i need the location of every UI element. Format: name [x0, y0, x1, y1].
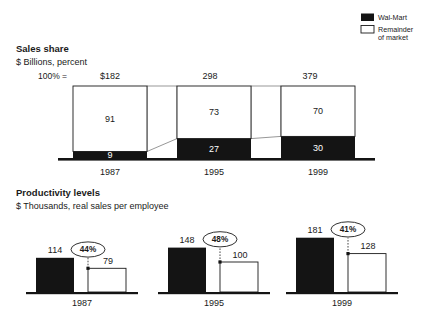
sales-share-value-walmart-1995: 27 — [209, 144, 219, 154]
productivity-callout-anchor-1987 — [86, 267, 89, 270]
productivity-callout-label-1987: 44% — [80, 245, 97, 254]
legend-swatch-remainder — [361, 26, 374, 34]
sales-share-year-1995: 1995 — [204, 167, 224, 177]
sales-share-baseline — [58, 158, 375, 161]
sales-share-value-walmart-1999: 30 — [313, 143, 323, 153]
sales-share-title: Sales share — [16, 43, 69, 54]
productivity-callout-anchor-1999 — [346, 252, 349, 255]
figure-canvas: Wal-Mart Remainder of market Sales share… — [0, 0, 424, 312]
sales-share-total-1995: 298 — [202, 71, 217, 81]
sales-share-value-remainder-1999: 70 — [313, 106, 323, 116]
chart-legend: Wal-Mart Remainder of market — [361, 13, 414, 42]
sales-share-column-1995[interactable]: 73 27 — [177, 86, 251, 158]
productivity-title: Productivity levels — [16, 187, 100, 198]
productivity-callout-anchor-1995 — [218, 260, 221, 263]
legend-swatch-wal-mart — [361, 14, 374, 22]
connector-band-1987-1995 — [147, 86, 177, 152]
productivity-value-walmart-1995: 148 — [179, 235, 194, 245]
sales-share-total-1999: 379 — [302, 71, 317, 81]
productivity-subtitle: $ Thousands, real sales per employee — [16, 201, 168, 211]
productivity-callout-label-1995: 48% — [212, 235, 229, 244]
productivity-callout-label-1999: 41% — [340, 225, 357, 234]
productivity-year-1999: 1999 — [332, 298, 352, 308]
connector-band-1987-1995-light — [147, 86, 177, 152]
figure-root: Wal-Mart Remainder of market Sales share… — [0, 0, 424, 312]
productivity-bar-remainder-1987[interactable] — [88, 268, 126, 292]
productivity-value-walmart-1987: 114 — [48, 245, 62, 255]
productivity-header: Productivity levels $ Thousands, real sa… — [16, 187, 168, 211]
sales-share-chart: 91 9 73 27 70 30 1987 1995 1999 — [58, 86, 375, 177]
sales-share-value-remainder-1987: 91 — [105, 114, 115, 124]
productivity-value-remainder-1995: 100 — [232, 250, 247, 260]
productivity-bar-walmart-1995[interactable] — [168, 248, 206, 292]
productivity-value-walmart-1999: 181 — [307, 225, 322, 235]
productivity-bar-remainder-1995[interactable] — [220, 262, 258, 292]
sales-share-subtitle: $ Billions, percent — [16, 57, 88, 67]
productivity-bar-walmart-1999[interactable] — [296, 238, 334, 292]
sales-share-total-1987: $182 — [100, 71, 120, 81]
productivity-value-remainder-1999: 128 — [360, 241, 375, 251]
sales-share-year-1999: 1999 — [308, 167, 328, 177]
productivity-baseline-1999 — [286, 292, 398, 294]
connector-band-1995-1999 — [251, 86, 281, 139]
connector-band-1995-1999-light — [251, 86, 281, 139]
productivity-year-1987: 1987 — [72, 298, 92, 308]
productivity-bar-remainder-1999[interactable] — [348, 254, 386, 292]
sales-share-column-1987[interactable]: 91 9 — [73, 86, 147, 160]
sales-share-value-remainder-1995: 73 — [209, 107, 219, 117]
productivity-bar-walmart-1987[interactable] — [36, 258, 74, 292]
sales-share-column-1999[interactable]: 70 30 — [281, 86, 355, 158]
sales-share-header: Sales share $ Billions, percent — [16, 43, 88, 67]
sales-share-axis-note: 100% = — [38, 71, 67, 81]
productivity-value-remainder-1987: 79 — [103, 256, 113, 266]
productivity-year-1995: 1995 — [204, 298, 224, 308]
productivity-baseline-1987 — [26, 292, 138, 294]
productivity-group-1999: 181 128 41% 1999 — [286, 222, 398, 308]
productivity-baseline-1995 — [158, 292, 270, 294]
productivity-group-1995: 148 100 48% 1995 — [158, 232, 270, 308]
legend-label-wal-mart: Wal-Mart — [378, 13, 407, 22]
sales-share-year-1987: 1987 — [100, 167, 120, 177]
productivity-group-1987: 114 79 44% 1987 — [26, 242, 138, 308]
sales-share-top-labels: 100% = $182 298 379 — [38, 71, 318, 81]
legend-label-remainder-line2: of market — [378, 33, 408, 42]
